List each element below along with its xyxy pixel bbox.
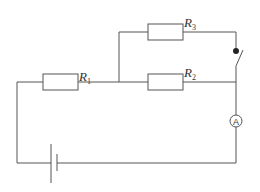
wire-middle [78, 32, 148, 82]
svg-text:A: A [233, 117, 239, 127]
battery [51, 144, 57, 183]
circuit-diagram: R1 R3 R2 A [0, 0, 260, 192]
svg-text:R3: R3 [183, 15, 196, 32]
wire-bottom [57, 127, 236, 163]
resistor-r2: R2 [148, 65, 196, 90]
wire-r3-right [183, 32, 236, 49]
svg-text:R1: R1 [78, 69, 91, 86]
svg-text:R2: R2 [183, 65, 196, 82]
wire-left [17, 82, 51, 163]
resistor-r3: R3 [148, 15, 196, 40]
switch [233, 48, 243, 66]
ammeter: A [230, 115, 242, 127]
resistor-r1: R1 [43, 69, 91, 90]
